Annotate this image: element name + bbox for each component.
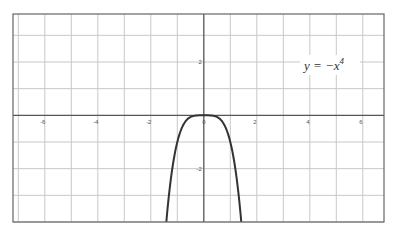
x-tick-label: -6 xyxy=(40,119,46,125)
axes xyxy=(13,14,384,222)
equation-annotation: y = −x4 xyxy=(300,55,360,75)
equation-label: y = −x4 xyxy=(302,56,345,73)
plot-frame xyxy=(13,14,384,222)
x-tick-labels: -6-4-20246 xyxy=(40,119,363,125)
x-tick-label: 0 xyxy=(202,119,206,125)
grid-lines xyxy=(13,14,384,222)
y-tick-label: -2 xyxy=(196,166,202,172)
x-tick-label: -4 xyxy=(93,119,99,125)
function-plot: -6-4-20246 2-2 y = −x4 xyxy=(0,0,398,234)
x-tick-label: -2 xyxy=(146,119,152,125)
